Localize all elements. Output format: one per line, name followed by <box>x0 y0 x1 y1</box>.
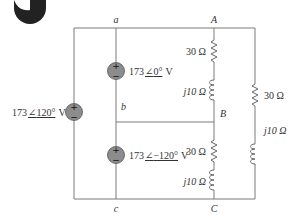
svg-text:173∠−120°V: 173∠−120°V <box>129 150 189 161</box>
source-label-bottom: 173∠−120°V <box>129 150 189 161</box>
impedance-label-CA-resistor: 30 Ω <box>264 90 284 101</box>
three-phase-circuit-diagram: + − + − + − 173∠120°V 173∠0°V 173∠−120°V… <box>0 0 303 222</box>
impedance-label-AB-resistor: 30 Ω <box>186 46 206 57</box>
minus-sign: − <box>112 71 120 81</box>
resistor-AB <box>211 40 217 62</box>
source-label-top: 173∠0°V <box>129 66 173 77</box>
minus-sign: − <box>70 112 78 122</box>
svg-text:173∠120°V: 173∠120°V <box>12 107 66 118</box>
impedance-label-AB-inductor: j10 Ω <box>181 86 206 97</box>
node-label-b: b <box>121 101 126 112</box>
resistor-CA <box>252 84 258 106</box>
voltage-source-bottom: + − <box>108 145 125 165</box>
impedance-label-BC-inductor: j10 Ω <box>181 176 206 187</box>
node-label-C: C <box>211 203 218 214</box>
plus-sign: + <box>70 102 78 112</box>
inductor-CA <box>251 144 256 166</box>
source-label-left: 173∠120°V <box>12 107 66 118</box>
svg-text:173∠0°V: 173∠0°V <box>129 66 173 77</box>
voltage-source-top: + − <box>108 61 125 81</box>
impedance-label-BC-resistor: 30 Ω <box>186 146 206 157</box>
wiring <box>74 28 255 199</box>
inductor-BC <box>210 170 215 190</box>
publisher-logo-icon <box>14 0 46 24</box>
node-label-c: c <box>114 203 119 214</box>
plus-sign: + <box>112 61 120 71</box>
node-label-A: A <box>210 14 218 25</box>
minus-sign: − <box>112 155 120 165</box>
plus-sign: + <box>112 145 120 155</box>
impedance-label-CA-inductor: j10 Ω <box>262 125 287 136</box>
resistor-BC <box>211 140 217 162</box>
voltage-source-left: + − <box>66 102 83 122</box>
node-label-B: B <box>220 108 226 119</box>
inductor-AB <box>210 80 215 100</box>
node-label-a: a <box>114 14 119 25</box>
